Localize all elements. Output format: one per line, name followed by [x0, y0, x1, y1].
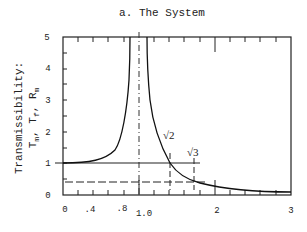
svg-text:0: 0 — [62, 205, 67, 215]
svg-text:.4: .4 — [85, 205, 96, 215]
svg-text:1.0: 1.0 — [136, 209, 152, 219]
transmissibility-chart: a. The System Transmissibility: Tm, Tf, … — [0, 0, 307, 232]
sqrt3-label: √3 — [187, 146, 199, 158]
x-tick-labels: 0 .4 .8 1.0 2 3 — [62, 204, 293, 219]
svg-text:.8: .8 — [117, 204, 128, 214]
svg-text:4: 4 — [45, 64, 50, 74]
curve-right-branch — [147, 37, 291, 192]
y-axis-label-line2: Tm, Tf, Rm — [27, 87, 41, 148]
svg-text:5: 5 — [44, 33, 49, 43]
y-tick-labels: 0 1 2 3 4 5 — [44, 33, 50, 201]
chart-title: a. The System — [119, 7, 205, 19]
svg-text:3: 3 — [288, 206, 293, 216]
sqrt2-label: √2 — [163, 129, 175, 141]
x-ticks-top — [78, 37, 276, 52]
y-axis-label: Transmissibility: Tm, Tf, Rm — [13, 62, 41, 174]
svg-text:2: 2 — [214, 206, 219, 216]
svg-text:0: 0 — [45, 191, 50, 201]
svg-text:1: 1 — [45, 159, 50, 169]
curve-left-branch — [63, 37, 130, 163]
svg-text:2: 2 — [45, 128, 50, 138]
svg-text:3: 3 — [45, 96, 50, 106]
y-axis-label-line1: Transmissibility: — [13, 62, 25, 174]
